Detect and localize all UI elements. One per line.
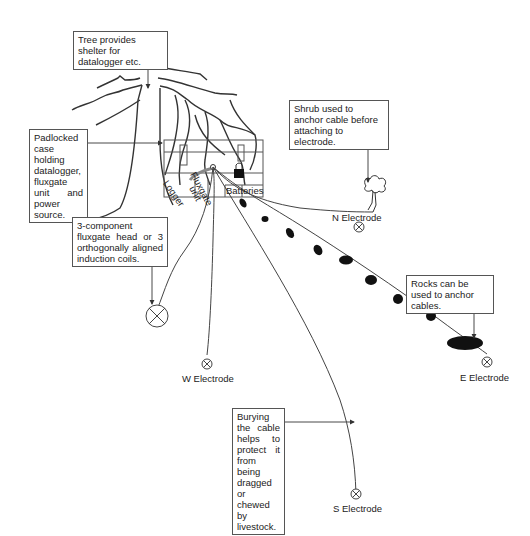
label-s-electrode: S Electrode (333, 503, 382, 514)
callout-rocks: Rocks can be used to anchor cables. (406, 275, 494, 314)
electrode-north-icon (354, 222, 364, 232)
electrode-south-icon (351, 489, 361, 499)
padlock-icon (234, 163, 244, 178)
electrode-east-icon (482, 357, 492, 367)
label-n-electrode: N Electrode (332, 212, 382, 223)
callout-shrub: Shrub used to anchor cable before attach… (289, 100, 389, 150)
case-label-batteries: Batteries (226, 185, 264, 196)
callout-tree: Tree provides shelter for datalogger etc… (73, 31, 168, 70)
callout-bury: Burying the cable helps to protect it fr… (232, 408, 285, 535)
callout-fluxgate: 3-component fluxgate head or 3 orthogona… (72, 217, 168, 267)
callout-case: Padlocked case holding datalogger, fluxg… (29, 129, 88, 223)
fluxgate-head-icon (146, 305, 168, 327)
label-e-electrode: E Electrode (460, 372, 509, 383)
label-w-electrode: W Electrode (182, 373, 234, 384)
electrode-west-icon (202, 359, 212, 369)
